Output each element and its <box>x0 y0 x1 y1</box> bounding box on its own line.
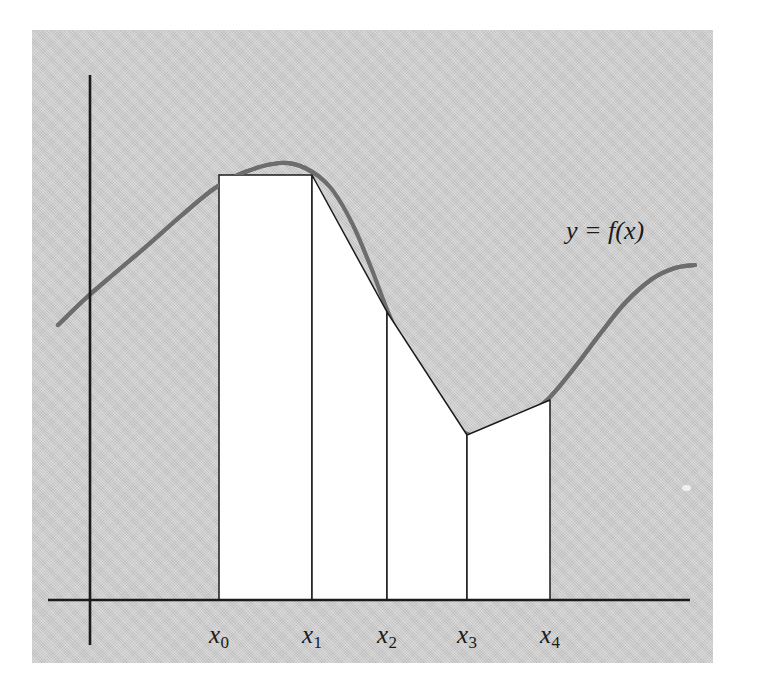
trapezoid-1 <box>219 175 312 600</box>
trapezoid-3 <box>387 312 467 600</box>
x-tick-label-0: x0 <box>209 622 229 651</box>
scan-speck-artifact <box>682 485 691 491</box>
trapezoid-2 <box>312 175 387 600</box>
plot-panel <box>32 30 713 663</box>
x-tick-label-1: x1 <box>302 622 322 651</box>
trapezoid-4 <box>467 400 550 600</box>
x-tick-label-2: x2 <box>377 622 397 651</box>
figure-root: x0x1x2x3x4 y = f(x) <box>0 0 759 694</box>
plot-canvas <box>32 30 713 663</box>
trapezoid-group <box>219 175 550 600</box>
x-tick-label-4: x4 <box>540 622 560 651</box>
curve-label: y = f(x) <box>566 218 644 244</box>
x-tick-label-3: x3 <box>457 622 477 651</box>
